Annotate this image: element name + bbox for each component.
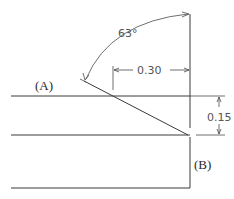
point-b-label: (B): [194, 157, 211, 172]
angle-label: 63°: [118, 27, 138, 40]
dim-030-label: 0.30: [137, 64, 162, 77]
technical-drawing: 63° 0.30 0.15 (A) (B): [0, 0, 234, 199]
chamfer-line: [84, 81, 188, 135]
dim-015-label: 0.15: [207, 111, 232, 124]
point-a-label: (A): [35, 78, 53, 93]
